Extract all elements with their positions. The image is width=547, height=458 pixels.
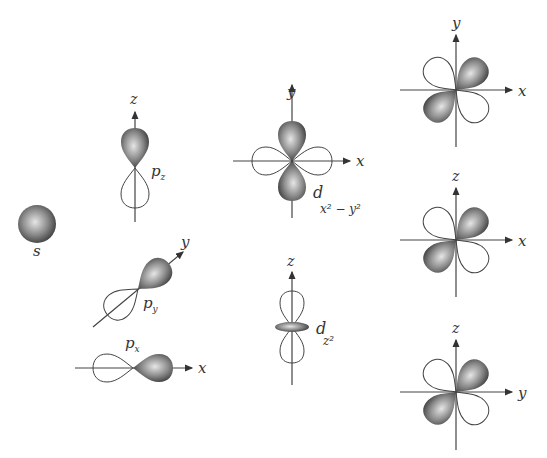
dxz-axis-v-label: z — [451, 168, 460, 184]
dx2y2-label: d — [313, 183, 323, 202]
s-label: s — [33, 242, 41, 260]
dz2-torus — [275, 322, 309, 332]
dxz-axis-h-label: x — [518, 232, 527, 250]
dz2-orbital: z d z² — [275, 253, 334, 385]
pz-lobe-positive — [121, 128, 149, 168]
dyz-axis-v-label: z — [451, 320, 460, 336]
py-axis-label: y — [180, 233, 190, 251]
dxz-orbital: z x — [400, 168, 527, 297]
s-orbital: s — [18, 205, 56, 260]
px-label: px — [125, 334, 140, 354]
dx2y2-orbital: y x d x² − y² — [233, 83, 365, 218]
pz-orbital: z pz — [121, 91, 166, 222]
dx2y2-axis-v-label: y — [286, 83, 296, 101]
orbital-diagram: s z pz y py x px y x d x² − y² — [0, 0, 547, 458]
py-orbital: y py — [93, 233, 190, 327]
dz2-axis-label: z — [286, 253, 295, 269]
py-label: py — [143, 294, 159, 314]
px-lobe-positive — [133, 354, 173, 382]
dx2y2-axis-h-label: x — [356, 152, 365, 170]
s-sphere — [18, 205, 56, 243]
pz-axis-label: z — [129, 91, 138, 107]
dx2y2-sub: x² − y² — [320, 202, 361, 216]
py-lobe-positive — [129, 253, 178, 300]
px-axis-label: x — [198, 359, 207, 377]
dxy-axis-v-label: y — [451, 14, 461, 32]
dxy-axis-h-label: x — [518, 82, 527, 100]
dxy-orbital: y x — [400, 14, 527, 147]
dyz-orbital: z y — [400, 320, 527, 450]
px-orbital: x px — [75, 334, 207, 382]
dx2y2-lobe-up — [278, 121, 306, 161]
dz2-sub: z² — [322, 334, 334, 348]
dyz-axis-h-label: y — [517, 384, 527, 402]
dx2y2-lobe-down — [278, 161, 306, 201]
pz-label: pz — [151, 162, 166, 182]
